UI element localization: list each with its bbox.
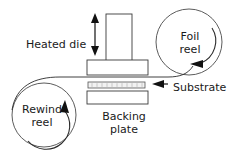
substrate-label: Substrate [173,81,227,94]
foil-reel-label-line2: reel [180,43,201,56]
backing-plate-label-line2: plate [110,123,138,136]
rewind-reel-label-line2: reel [32,116,53,129]
double-arrow-vertical-icon [91,13,99,56]
substrate-pointer-arrow [152,80,168,88]
backing-plate [87,91,148,104]
die-base [87,60,148,75]
rewind-reel-label-line1: Rewind [22,103,62,116]
heated-die-label: Heated die [26,38,86,51]
backing-plate-label-line1: Backing [102,110,146,123]
foil-reel-label-line1: Foil [181,30,200,43]
die-column [106,14,132,61]
foil-web-strip [88,82,145,88]
diagram-canvas: Heated die Foil reel Rewind reel Substra… [0,0,233,157]
hot-foil-stamping-diagram: Heated die Foil reel Rewind reel Substra… [0,0,233,157]
